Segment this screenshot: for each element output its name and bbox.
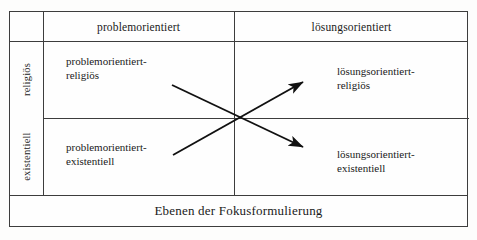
column-header-label: problemorientiert [97, 21, 180, 33]
horizontal-rule-header [10, 41, 467, 42]
cell-line-1: lösungsorientiert- [337, 64, 415, 78]
cell-line-1: problemorientiert- [66, 54, 147, 68]
horizontal-rule-mid-row [43, 118, 469, 119]
cell-line-2: existentiell [337, 161, 415, 175]
focus-formulation-matrix-figure: problemorientiert lösungsorientiert reli… [0, 0, 477, 240]
row-header-label: religiös [21, 63, 32, 96]
cell-line-1: lösungsorientiert- [337, 147, 415, 161]
cell-loesungsorientiert-existentiell: lösungsorientiert- existentiell [337, 147, 415, 175]
cell-line-2: religiös [337, 78, 415, 92]
row-header-existentiell: existentiell [10, 118, 43, 195]
column-header-loesungsorientiert: lösungsorientiert [234, 12, 469, 41]
cell-problemorientiert-religioes: problemorientiert- religiös [66, 54, 147, 82]
figure-caption-bar: Ebenen der Fokusformulierung [10, 195, 467, 226]
column-header-problemorientiert: problemorientiert [43, 12, 234, 41]
row-header-religioes: religiös [10, 41, 43, 118]
cell-line-2: religiös [66, 68, 147, 82]
matrix-table: problemorientiert lösungsorientiert reli… [9, 11, 468, 227]
column-header-label: lösungsorientiert [312, 21, 392, 33]
row-header-label: existentiell [21, 132, 32, 180]
cell-loesungsorientiert-religioes: lösungsorientiert- religiös [337, 64, 415, 92]
cell-problemorientiert-existentiell: problemorientiert- existentiell [66, 140, 147, 168]
cell-line-2: existentiell [66, 154, 147, 168]
cell-line-1: problemorientiert- [66, 140, 147, 154]
figure-caption-label: Ebenen der Fokusformulierung [154, 203, 322, 219]
